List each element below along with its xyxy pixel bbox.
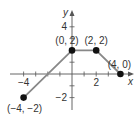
x-tick-label: 2 bbox=[93, 77, 99, 88]
ticks: −424−2 bbox=[18, 21, 121, 103]
x-axis-label: x bbox=[127, 76, 134, 87]
point-label: (2, 2) bbox=[85, 35, 108, 46]
piecewise-graph: x y −424−2 (−4, −2)(0, 2)(2, 2)(4, 0) bbox=[0, 0, 140, 116]
y-axis-label: y bbox=[62, 7, 69, 18]
point-label: (4, 0) bbox=[108, 59, 131, 70]
y-tick-label: −2 bbox=[56, 92, 68, 103]
y-tick-label: 4 bbox=[61, 21, 67, 32]
data-point bbox=[69, 47, 76, 54]
point-label: (0, 2) bbox=[55, 35, 78, 46]
data-point bbox=[93, 47, 100, 54]
x-tick-label: −4 bbox=[18, 77, 30, 88]
data-point bbox=[20, 94, 27, 101]
y-axis-arrow-icon bbox=[70, 10, 75, 16]
data-point bbox=[117, 71, 124, 78]
point-labels: (−4, −2)(0, 2)(2, 2)(4, 0) bbox=[7, 35, 131, 113]
point-label: (−4, −2) bbox=[7, 103, 42, 114]
